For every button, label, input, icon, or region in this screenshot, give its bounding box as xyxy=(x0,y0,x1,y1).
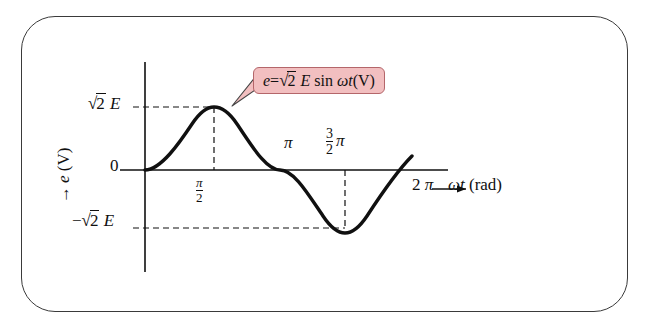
three-half-pi-symbol: π xyxy=(336,131,345,150)
callout-func: sin xyxy=(314,72,333,89)
peak-radicand: 2 xyxy=(96,93,106,113)
y-axis-label: →e (V) xyxy=(50,108,76,204)
x-axis-unit: (rad) xyxy=(469,175,502,194)
equation-callout: e=√2 E sin ωt(V) xyxy=(253,67,385,94)
pi-half-numerator: π xyxy=(196,176,203,190)
pi-half-denominator: 2 xyxy=(196,190,203,205)
x-axis-symbol: ωt xyxy=(448,175,465,194)
callout-unit: (V) xyxy=(353,72,375,89)
x-tick-pi-over-2: π 2 xyxy=(196,176,203,205)
y-tick-positive-peak: √2 E xyxy=(88,95,120,112)
x-tick-three-pi-over-2: 3 2 π xyxy=(326,126,345,157)
waveform-plot xyxy=(0,0,649,328)
neg-radicand: 2 xyxy=(90,210,100,230)
neg-symbol: E xyxy=(104,211,114,230)
callout-equals: = xyxy=(270,72,279,89)
y-tick-zero: 0 xyxy=(110,157,119,174)
y-axis-arrow-icon: → xyxy=(54,186,74,203)
x-tick-two-pi: 2 π xyxy=(412,176,433,193)
y-tick-negative-peak: −√2 E xyxy=(72,212,114,229)
three-half-numerator: 3 xyxy=(326,126,333,141)
y-axis-symbol: e xyxy=(54,175,74,183)
two-pi-symbol: π xyxy=(425,175,434,194)
callout-radicand: 2 xyxy=(287,71,296,89)
x-axis-label: ωt (rad) xyxy=(448,176,502,193)
three-half-denominator: 2 xyxy=(326,141,333,157)
neg-sign: − xyxy=(72,211,82,230)
y-axis-unit: (V) xyxy=(54,148,74,172)
callout-argument: ωt xyxy=(337,72,353,89)
x-tick-pi: π xyxy=(284,134,293,151)
callout-amplitude: E xyxy=(300,72,310,89)
peak-symbol: E xyxy=(110,94,120,113)
two-pi-coefficient: 2 xyxy=(412,175,421,194)
